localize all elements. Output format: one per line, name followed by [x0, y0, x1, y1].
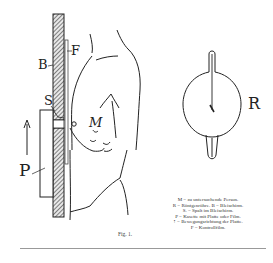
label-f: F — [71, 43, 80, 58]
label-s: S — [44, 93, 53, 108]
label-b: B — [38, 57, 48, 72]
label-p: P — [19, 160, 30, 180]
xray-tube — [183, 51, 241, 159]
marker-circle-icon — [72, 122, 76, 126]
figure-legend: M = zu untersuchende Person. R = Röntgen… — [148, 197, 268, 231]
label-m: M — [89, 115, 102, 130]
control-film — [65, 40, 68, 164]
cassette — [40, 110, 53, 197]
lead-shield — [53, 14, 64, 217]
legend-line: F = Kontrollfilm. — [148, 225, 268, 231]
person-outline — [70, 30, 140, 220]
divider — [20, 248, 266, 249]
label-r: R — [248, 94, 260, 113]
figure-caption: Fig. 1. — [118, 231, 132, 237]
movement-arrow-icon — [24, 120, 30, 155]
